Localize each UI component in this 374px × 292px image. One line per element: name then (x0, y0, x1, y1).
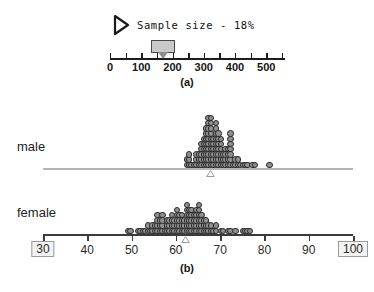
slider-tick (126, 53, 127, 59)
slider-tick (282, 53, 283, 59)
slider-tick (141, 53, 142, 59)
play-triangle-icon[interactable] (112, 14, 130, 36)
female-dotplot-area (43, 170, 353, 234)
axis-tick (309, 236, 311, 241)
slider-tick-label: 100 (132, 61, 150, 73)
data-point (186, 151, 192, 157)
group-label-male: male (17, 139, 45, 154)
axis-tick-label: 80 (258, 243, 271, 257)
axis-tick (264, 236, 266, 241)
axis-tick (176, 236, 178, 241)
sample-size-panel: Sample size - 18% 0100200300400500 (a) (0, 0, 374, 98)
axis-tick (132, 236, 134, 241)
axis-tick-label: 60 (169, 243, 182, 257)
axis-tick-label: 40 (81, 243, 94, 257)
slider-tick (235, 53, 236, 59)
slider-tick (157, 53, 158, 59)
caption-a: (a) (0, 76, 374, 88)
slider-tick-label: 500 (257, 61, 275, 73)
data-point (227, 130, 233, 136)
data-point (196, 202, 202, 208)
sample-size-label: Sample size - 18% (137, 19, 255, 31)
axis-range-handle[interactable]: 30 (31, 241, 54, 257)
slider-axis-line (110, 58, 285, 60)
axis-range-handle[interactable]: 100 (338, 241, 368, 257)
caption-b: (b) (0, 262, 374, 274)
slider-tick-label: 400 (226, 61, 244, 73)
axis-tick (220, 236, 222, 241)
axis-tick (87, 236, 89, 241)
slider-tick (266, 53, 267, 59)
slider-tick-label: 0 (107, 61, 113, 73)
slider-tick (173, 53, 174, 59)
slider-tick (251, 53, 252, 59)
slider-tick (204, 53, 205, 59)
slider-tick (188, 53, 189, 59)
slider-tick (219, 53, 220, 59)
slider-tick-label: 200 (163, 61, 181, 73)
female-mean-marker (181, 236, 190, 243)
axis-tick-label: 90 (302, 243, 315, 257)
female-dots (43, 170, 353, 234)
axis-tick-label: 70 (213, 243, 226, 257)
slider-tick (110, 53, 111, 59)
axis-tick-label: 50 (125, 243, 138, 257)
data-point (218, 136, 224, 142)
female-axis-line (43, 234, 353, 236)
male-dots (43, 104, 353, 168)
slider-tick-label: 300 (195, 61, 213, 73)
dotplot-panel: male female 30405060708090100 (b) (0, 100, 374, 292)
sample-size-slider[interactable]: 0100200300400500 (110, 40, 285, 76)
sample-size-control[interactable]: Sample size - 18% (112, 12, 255, 38)
male-dotplot-area (43, 104, 353, 168)
